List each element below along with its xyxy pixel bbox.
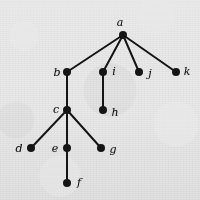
tree-node-k [172,68,180,76]
tree-node-b [63,68,71,76]
tree-node-label-j: j [148,68,151,79]
tree-node-i [99,68,107,76]
tree-node-label-b: b [53,67,60,78]
tree-diagram-figure: abijkchdegf [0,0,200,200]
tree-node-d [27,144,35,152]
tree-node-label-a: a [117,17,124,28]
tree-node-label-k: k [184,66,191,77]
tree-node-e [63,144,71,152]
tree-node-h [99,106,107,114]
tree-edge [67,110,101,148]
tree-node-j [135,68,143,76]
tree-node-label-d: d [15,143,22,154]
tree-node-label-h: h [111,107,118,118]
tree-node-f [63,179,71,187]
tree-node-label-e: e [52,143,59,154]
tree-node-label-i: i [112,66,116,77]
tree-node-a [119,31,127,39]
tree-node-label-f: f [77,177,81,188]
tree-edge [31,110,67,148]
node-layer [27,31,180,187]
tree-node-c [63,106,71,114]
tree-node-label-c: c [53,104,59,115]
tree-node-g [97,144,105,152]
tree-node-label-g: g [109,144,116,155]
tree-graph-canvas [0,0,200,200]
